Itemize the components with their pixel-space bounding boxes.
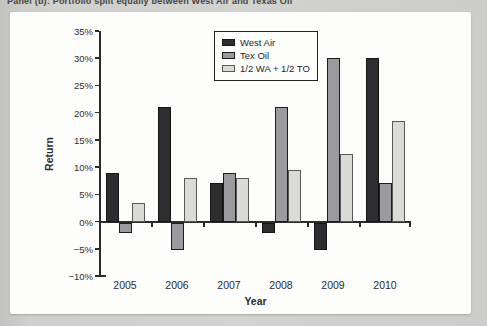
legend-swatch-icon [222,65,235,72]
y-axis-tick [95,112,99,114]
y-tick-label: 25% [53,80,93,91]
x-axis-tick [203,223,205,227]
bar-1-2-wa-1-2-to [236,178,249,222]
y-axis-tick [95,248,99,250]
bar-west-air [158,107,171,221]
y-tick-label: −10% [53,271,93,282]
x-tick-label: 2008 [261,279,301,291]
y-axis-tick [95,139,99,141]
x-tick-label: 2006 [157,279,197,291]
y-axis-corner-stub [100,275,106,277]
legend-label: 1/2 WA + 1/2 TO [240,63,310,74]
legend-item: 1/2 WA + 1/2 TO [222,62,311,75]
legend-label: Tex Oil [240,50,269,61]
x-axis-tick [151,223,153,227]
y-tick-label: 35% [53,26,93,37]
y-axis-tick [95,57,99,59]
y-axis-tick [95,194,99,196]
x-axis-tick [359,223,361,227]
y-axis-tick [95,221,99,223]
x-tick-label: 2009 [313,279,353,291]
x-axis-tick [307,223,309,227]
y-axis-tick [95,30,99,32]
bar-tex-oil [223,173,236,222]
y-axis-tick [95,275,99,277]
x-axis-end-tick [409,223,411,227]
y-axis-tick [95,85,99,87]
screenshot-root: Panel (b): Portfolio split equally betwe… [0,0,487,326]
bar-tex-oil [327,58,340,221]
legend-item: West Air [222,36,311,49]
bar-tex-oil [275,107,288,221]
bar-west-air [210,183,223,221]
legend-swatch-icon [222,39,235,46]
bar-west-air [262,223,275,234]
bar-tex-oil [171,223,184,250]
legend-swatch-icon [222,52,235,59]
legend: West AirTex Oil1/2 WA + 1/2 TO [214,31,318,81]
legend-item: Tex Oil [222,49,311,62]
bar-1-2-wa-1-2-to [288,170,301,222]
bar-west-air [366,58,379,221]
bar-1-2-wa-1-2-to [340,154,353,222]
bar-tex-oil [119,223,132,234]
y-tick-label: 30% [53,53,93,64]
bar-tex-oil [379,183,392,221]
bar-1-2-wa-1-2-to [392,121,405,222]
chart-panel: Return Year 35%30%25%20%15%10%5%0%−5%−10… [10,12,471,314]
bar-west-air [106,173,119,222]
y-tick-label: 15% [53,134,93,145]
y-tick-label: 5% [53,189,93,200]
y-axis-tick [95,166,99,168]
x-tick-label: 2007 [209,279,249,291]
legend-label: West Air [240,37,275,48]
x-axis-title: Year [100,295,411,307]
y-tick-label: 10% [53,162,93,173]
x-tick-label: 2005 [105,279,145,291]
panel-caption: Panel (b): Portfolio split equally betwe… [7,0,292,6]
y-tick-label: 20% [53,107,93,118]
bar-1-2-wa-1-2-to [184,178,197,222]
x-axis-tick [255,223,257,227]
x-tick-label: 2010 [365,279,405,291]
bar-1-2-wa-1-2-to [132,203,145,222]
y-tick-label: 0% [53,216,93,227]
y-tick-label: −5% [53,243,93,254]
y-axis-line [99,31,101,277]
bar-west-air [314,223,327,250]
